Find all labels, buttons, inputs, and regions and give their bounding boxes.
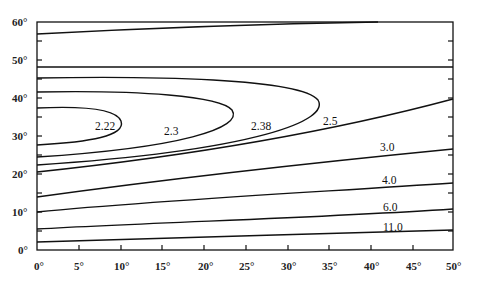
x-tick-40: 40°: [364, 260, 379, 272]
x-tick-35: 35°: [322, 260, 337, 272]
y-tick-50: 50°: [12, 54, 27, 66]
label-6-0: 6.0: [383, 201, 398, 213]
x-axis: 0° 5° 10° 15° 20° 25° 30° 35° 40° 45° 50…: [34, 245, 461, 272]
right-axis-ticks: [448, 41, 453, 231]
label-4-0: 4.0: [382, 174, 397, 186]
x-tick-20: 20°: [198, 260, 213, 272]
label-3-0: 3.0: [380, 141, 395, 153]
y-tick-30: 30°: [12, 130, 27, 142]
contour-2-38: [37, 77, 319, 165]
y-tick-60: 60°: [12, 16, 27, 28]
y-tick-10: 10°: [12, 206, 27, 218]
y-tick-0: 0°: [18, 244, 28, 256]
x-tick-25: 25°: [239, 260, 254, 272]
label-2-22: 2.22: [95, 120, 115, 132]
x-tick-0: 0°: [34, 260, 44, 272]
contour-3-0: [37, 149, 453, 197]
contour-top: [37, 22, 378, 34]
y-tick-40: 40°: [12, 92, 27, 104]
y-tick-20: 20°: [12, 168, 27, 180]
x-tick-10: 10°: [114, 260, 129, 272]
x-tick-45: 45°: [406, 260, 421, 272]
label-2-38: 2.38: [251, 120, 271, 132]
plot-frame: [37, 22, 453, 250]
contour-chart: 2.22 2.3 2.38 2.5 3.0 4.0 6.0 11.0 0° 5°…: [0, 0, 478, 289]
contour-labels: 2.22 2.3 2.38 2.5 3.0 4.0 6.0 11.0: [95, 115, 403, 233]
label-2-5: 2.5: [323, 115, 338, 127]
x-tick-5: 5°: [74, 260, 84, 272]
x-tick-50: 50°: [446, 260, 461, 272]
label-11-0: 11.0: [383, 221, 403, 233]
x-tick-15: 15°: [155, 260, 170, 272]
x-tick-30: 30°: [281, 260, 296, 272]
label-2-3: 2.3: [164, 125, 179, 137]
